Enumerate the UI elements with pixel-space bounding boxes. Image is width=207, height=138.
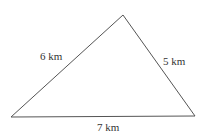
side-label-bottom: 7 km (97, 121, 119, 133)
side-label-right: 5 km (163, 55, 185, 67)
triangle-diagram (0, 0, 207, 138)
side-label-left: 6 km (40, 50, 62, 62)
